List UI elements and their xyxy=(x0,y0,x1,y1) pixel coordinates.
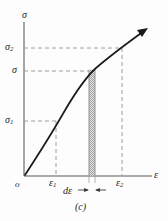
stress-strain-curve xyxy=(25,31,144,175)
d-epsilon-left-arrowhead xyxy=(84,188,89,192)
sigma2-subscript: 2 xyxy=(10,45,13,52)
d-epsilon-right-arrowhead xyxy=(95,188,100,192)
figure-caption-c: (c) xyxy=(75,202,86,212)
d-epsilon-shaded-strip xyxy=(89,70,95,176)
y-tick-label-sigma2: σ2 xyxy=(5,42,13,53)
eps2-subscript: 2 xyxy=(120,181,123,188)
y-tick-label-sigma1: σ1 xyxy=(5,115,13,126)
d-epsilon-label: dε xyxy=(63,186,72,196)
x-tick-label-epsilon1: ε1 xyxy=(49,178,56,189)
stress-strain-figure: σ σ2 σ σ1 o ε1 ε2 ε dε (c) xyxy=(0,0,168,221)
eps1-subscript: 1 xyxy=(53,181,56,188)
x-axis-label-epsilon: ε xyxy=(154,170,158,180)
sigma1-subscript: 1 xyxy=(10,118,13,125)
stress-strain-plot xyxy=(0,0,168,221)
x-tick-label-epsilon2: ε2 xyxy=(116,178,123,189)
y-axis-label-sigma: σ xyxy=(22,10,27,20)
origin-label: o xyxy=(15,180,20,189)
y-tick-label-sigma: σ xyxy=(12,65,17,75)
